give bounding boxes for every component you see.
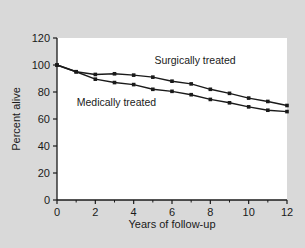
survival-curve-chart: 020406080100120 024681012 Surgically tre…: [0, 0, 305, 248]
y-axis-tick-label: 60: [38, 113, 50, 125]
series-marker: [285, 104, 289, 108]
figure-container: 020406080100120 024681012 Surgically tre…: [0, 0, 305, 248]
series-marker: [170, 90, 174, 94]
y-axis-tick-label: 80: [38, 86, 50, 98]
x-axis-title: Years of follow-up: [128, 218, 215, 230]
series-marker: [170, 79, 174, 83]
x-axis-tick-label: 0: [54, 206, 60, 218]
x-axis-tick-label: 2: [92, 206, 98, 218]
series-annotation-1: Medically treated: [77, 96, 157, 108]
series-marker: [228, 92, 232, 96]
series-marker: [151, 88, 155, 92]
x-axis-tick-label: 8: [207, 206, 213, 218]
series-marker: [113, 72, 117, 76]
series-marker: [209, 98, 213, 102]
y-axis-tick-label: 40: [38, 140, 50, 152]
series-marker: [266, 108, 270, 112]
y-axis-tick-label: 120: [32, 32, 50, 44]
x-axis-tick-label: 6: [169, 206, 175, 218]
x-axis-tick-label: 4: [131, 206, 137, 218]
series-marker: [113, 81, 117, 85]
x-axis-tick-label: 12: [281, 206, 293, 218]
series-marker: [132, 73, 136, 77]
y-axis-title: Percent alive: [10, 87, 22, 151]
series-marker: [189, 82, 193, 86]
series-marker: [151, 75, 155, 79]
y-axis-tick-label: 0: [44, 194, 50, 206]
series-marker: [266, 100, 270, 104]
y-axis-tick-label: 20: [38, 167, 50, 179]
series-marker: [189, 93, 193, 97]
series-marker: [247, 96, 251, 100]
series-marker: [209, 88, 213, 92]
series-marker: [285, 110, 289, 114]
series-annotation-0: Surgically treated: [154, 54, 235, 66]
series-marker: [132, 83, 136, 87]
series-marker: [247, 105, 251, 109]
series-marker: [94, 73, 98, 77]
series-marker: [74, 70, 78, 74]
series-marker: [55, 63, 59, 67]
series-marker: [228, 101, 232, 105]
series-marker: [94, 77, 98, 81]
x-axis-tick-label: 10: [243, 206, 255, 218]
y-axis-tick-label: 100: [32, 59, 50, 71]
